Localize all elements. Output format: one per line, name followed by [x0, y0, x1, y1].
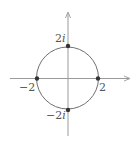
label-2i: 2i: [55, 32, 66, 45]
label-neg-2i: −2i: [46, 109, 66, 122]
point-neg-2i: [66, 108, 70, 112]
label-2: 2: [99, 81, 106, 94]
complex-plane-diagram: 2i −2i −2 2: [0, 0, 137, 141]
label-neg-2: −2: [19, 81, 35, 94]
point-neg-2: [35, 76, 39, 80]
point-2i: [66, 44, 70, 48]
